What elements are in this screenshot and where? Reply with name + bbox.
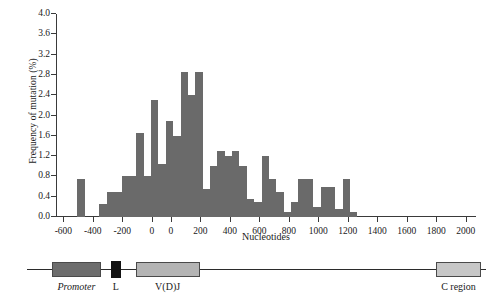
histogram-bar [181, 72, 188, 217]
y-axis-tick [51, 74, 56, 75]
x-axis-tick [348, 217, 349, 222]
histogram-bar [269, 179, 276, 217]
y-axis-tick-label: 4.0 [38, 9, 50, 19]
y-axis-tick-labels: 0.00.40.81.21.62.02.42.83.23.64.0 [14, 0, 50, 230]
histogram-bar [77, 179, 84, 217]
histogram-bar [210, 166, 217, 217]
y-axis-tick [51, 155, 56, 156]
y-axis-tick-label: 0.8 [38, 172, 50, 182]
y-axis-tick-label: 3.6 [38, 30, 50, 40]
histogram-bar [328, 187, 335, 217]
y-axis-tick-label: 0.0 [38, 212, 50, 222]
y-axis-line [56, 14, 57, 217]
histogram-bar [284, 212, 291, 217]
histogram-bar [225, 156, 232, 217]
x-axis-tick [259, 217, 260, 222]
histogram-bar [291, 202, 298, 217]
histogram-bar [247, 199, 254, 217]
x-axis-tick [436, 217, 437, 222]
histogram-bar [254, 202, 261, 217]
histogram-bar [114, 192, 121, 217]
y-axis-tick [51, 135, 56, 136]
gene-segment-label-promoter: Promoter [57, 281, 95, 292]
histogram-bar [343, 179, 350, 217]
x-axis-tick [63, 217, 64, 222]
histogram-bar [321, 187, 328, 217]
y-axis-tick-label: 2.8 [38, 70, 50, 80]
gene-segment-vdj [136, 262, 200, 277]
chart-area: Frequency of mutation (%) 0.00.40.81.21.… [0, 0, 493, 248]
y-axis-tick [51, 115, 56, 116]
y-axis-tick [51, 13, 56, 14]
x-axis-tick [407, 217, 408, 222]
y-axis-tick [51, 54, 56, 55]
histogram-bar [188, 95, 195, 217]
y-axis-tick [51, 216, 56, 217]
histogram-bar [151, 100, 158, 217]
y-axis-tick-label: 0.4 [38, 192, 50, 202]
x-axis-tick [466, 217, 467, 222]
x-axis-tick [171, 217, 172, 222]
gene-segment-promoter [52, 262, 101, 277]
y-axis-tick [51, 94, 56, 95]
histogram-bar [276, 192, 283, 217]
histogram-bar [166, 121, 173, 217]
histogram-bar [195, 72, 202, 217]
y-axis-tick-label: 1.6 [38, 131, 50, 141]
y-axis-tick [51, 196, 56, 197]
y-axis-tick-label: 2.4 [38, 90, 50, 100]
x-axis-tick [318, 217, 319, 222]
x-axis-tick [122, 217, 123, 222]
y-axis-tick-label: 2.0 [38, 111, 50, 121]
x-axis-tick [230, 217, 231, 222]
histogram-bar [350, 212, 357, 217]
histogram-bar [129, 176, 136, 217]
histogram-bar [239, 166, 246, 217]
y-axis-tick [51, 33, 56, 34]
histogram-bar [136, 133, 143, 217]
histogram-bar [99, 204, 106, 217]
y-axis-tick-label: 1.2 [38, 151, 50, 161]
gene-segment-leader [111, 261, 121, 278]
histogram-bar [203, 189, 210, 217]
histogram-bar [107, 192, 114, 217]
histogram-bar [217, 151, 224, 217]
histogram-bar [173, 136, 180, 217]
histogram-bar [158, 164, 165, 217]
x-axis-tick [200, 217, 201, 222]
gene-segment-label-c-region: C region [441, 281, 476, 292]
y-axis-tick [51, 175, 56, 176]
gene-segment-label-vdj: V(D)J [155, 281, 180, 292]
plot-region: -600-400-2000020040060080010001200140016… [56, 14, 476, 217]
gene-segment-label-leader: L [113, 281, 119, 292]
gene-structure-diagram: PromoterLV(D)JC region [0, 248, 493, 294]
gene-segment-c-region [436, 262, 480, 277]
histogram-bar [298, 179, 305, 217]
x-axis-title: Nucleotides [56, 231, 476, 242]
histogram-bar [262, 156, 269, 217]
histogram-bar [232, 151, 239, 217]
histogram-bar [306, 179, 313, 217]
x-axis-tick [377, 217, 378, 222]
histogram-bar [313, 207, 320, 217]
x-axis-tick [289, 217, 290, 222]
y-axis-tick-label: 3.2 [38, 50, 50, 60]
mutation-frequency-figure: Frequency of mutation (%) 0.00.40.81.21.… [0, 0, 493, 294]
histogram-bar [122, 176, 129, 217]
histogram-bar [144, 176, 151, 217]
histogram-bar [335, 209, 342, 217]
x-axis-tick [93, 217, 94, 222]
x-axis-tick [152, 217, 153, 222]
